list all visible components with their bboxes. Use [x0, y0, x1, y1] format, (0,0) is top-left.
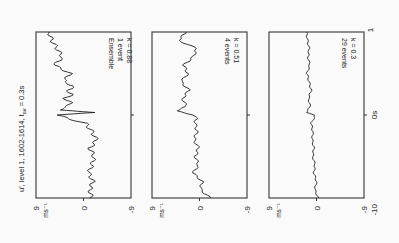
- value-axis-label: 0: [80, 205, 89, 210]
- rotated-figure: u', level 1, 1602-1614, tav = 0.3s Ensem…: [0, 0, 399, 243]
- value-axis-label: 9: [265, 205, 274, 210]
- panel-2: 4 eventsk = 0.5190-9ms⁻¹: [148, 32, 252, 218]
- series-line: [48, 32, 98, 198]
- figure-title: u', level 1, 1602-1614, tav = 0.3s: [17, 85, 27, 192]
- value-axis-label: -9: [127, 205, 136, 213]
- panel-annotation: 29 events: [341, 38, 348, 69]
- value-axis-label: 9: [32, 205, 41, 210]
- time-label-end: 1: [366, 27, 375, 32]
- value-axis-label: 0: [196, 205, 205, 210]
- panel-3: 29 eventsk = 0.390-9ms⁻¹: [265, 32, 369, 218]
- panel-annotation: Ensemble: [108, 38, 115, 69]
- value-axis-unit: ms⁻¹: [42, 202, 49, 218]
- panel-annotation: 4 events: [224, 38, 231, 65]
- time-label-start: -10: [370, 203, 379, 215]
- value-axis-unit: ms⁻¹: [275, 202, 282, 218]
- value-axis-label: -9: [243, 205, 252, 213]
- panel-1: Ensemble1 eventk = 0.8890-9ms⁻¹: [32, 32, 136, 218]
- panel-annotation: k = 0.51: [233, 38, 240, 63]
- panel-frame: [152, 32, 247, 198]
- value-axis-label: 9: [148, 205, 157, 210]
- series-line: [177, 32, 210, 198]
- value-axis-label: 0: [313, 205, 322, 210]
- panel-frame: [36, 32, 131, 198]
- value-axis-label: -9: [360, 205, 369, 213]
- panel-frame: [269, 32, 364, 198]
- panel-annotation: k = 0.3: [350, 38, 357, 59]
- value-axis-unit: ms⁻¹: [158, 202, 165, 218]
- time-label-zero: 0s: [370, 111, 379, 119]
- panel-annotation: k = 0.88: [126, 38, 133, 63]
- series-line: [306, 32, 318, 198]
- panel-annotation: 1 event: [117, 38, 124, 61]
